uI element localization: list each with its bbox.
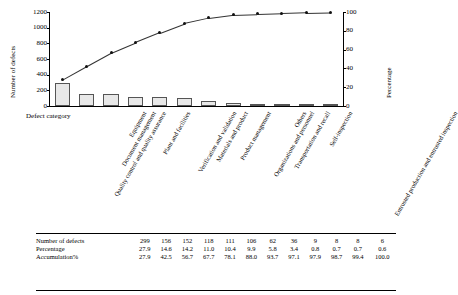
- y-right-tickmark: [343, 50, 346, 51]
- table-cell-1-3: 11.0: [198, 244, 219, 252]
- table-bottom-rule: [36, 290, 396, 291]
- y-left-tick-800: 800: [37, 40, 48, 47]
- table-cell-0-11: 6: [369, 236, 396, 244]
- y-right-tickmark: [343, 12, 346, 13]
- y-right-tickmark: [343, 68, 346, 69]
- table-cell-2-2: 56.7: [177, 253, 198, 261]
- table-top-rule: [36, 233, 396, 234]
- table-cell-2-8: 97.9: [305, 253, 326, 261]
- table-cell-2-10: 99.4: [347, 253, 368, 261]
- data-point-0: [61, 78, 64, 81]
- table-cell-1-1: 14.6: [155, 244, 176, 252]
- x-axis-tick-labels: Quality control and quality assuranceDoc…: [49, 108, 342, 188]
- table-row: Number of defects29915615211811110662369…: [36, 236, 396, 244]
- line-segment-0: [62, 66, 87, 81]
- data-point-1: [85, 65, 88, 68]
- table-cell-0-9: 8: [326, 236, 347, 244]
- y-right-tick-0: 0: [346, 103, 350, 110]
- line-segment-10: [306, 12, 330, 14]
- y-right-tick-100: 100: [346, 9, 357, 16]
- data-point-10: [305, 11, 308, 14]
- table-cell-2-5: 88.0: [241, 253, 262, 261]
- y-right-tick-60: 60: [346, 46, 353, 53]
- data-point-6: [207, 16, 210, 19]
- table-cell-1-2: 14.2: [177, 244, 198, 252]
- table-cell-0-1: 156: [155, 236, 176, 244]
- y-right-tick-40: 40: [346, 65, 353, 72]
- y-right-tick-80: 80: [346, 27, 353, 34]
- table-cell-0-5: 106: [241, 236, 262, 244]
- data-point-2: [110, 51, 113, 54]
- table-cell-2-1: 42.5: [155, 253, 176, 261]
- data-point-11: [329, 11, 332, 14]
- y-axis-left-label: Number of defects: [9, 46, 17, 98]
- table-cell-1-9: 0.7: [326, 244, 347, 252]
- y-right-tick-20: 20: [346, 84, 353, 91]
- cumulative-line-series: [50, 12, 343, 106]
- table-cell-0-3: 118: [198, 236, 219, 244]
- table-cell-0-6: 62: [262, 236, 283, 244]
- x-tick-label-10: Self-inspection: [328, 110, 354, 148]
- table-row: Percentage27.914.614.211.010.49.95.83.40…: [36, 244, 396, 252]
- y-right-tickmark: [343, 31, 346, 32]
- table-cell-1-6: 5.8: [262, 244, 283, 252]
- line-segment-1: [87, 53, 112, 67]
- table-cell-1-4: 10.4: [219, 244, 240, 252]
- table-cell-2-11: 100.0: [369, 253, 396, 261]
- data-point-3: [134, 41, 137, 44]
- table-cell-1-10: 0.7: [347, 244, 368, 252]
- y-right-tickmark: [343, 106, 346, 107]
- table-cell-1-0: 27.9: [134, 244, 155, 252]
- line-segment-3: [135, 33, 160, 44]
- table-cell-0-2: 152: [177, 236, 198, 244]
- y-left-tick-1000: 1000: [33, 24, 47, 31]
- line-segment-7: [233, 14, 257, 16]
- table-row-header: Percentage: [36, 244, 134, 252]
- table-cell-1-5: 9.9: [241, 244, 262, 252]
- line-segment-5: [184, 18, 209, 24]
- table-row-header: Number of defects: [36, 236, 134, 244]
- y-left-tickmark: [47, 59, 50, 60]
- table-cell-1-11: 0.6: [369, 244, 396, 252]
- table-cell-2-4: 78.1: [219, 253, 240, 261]
- table-cell-0-10: 8: [347, 236, 368, 244]
- y-axis-right-label: Percentage: [385, 67, 393, 98]
- y-left-tick-200: 200: [37, 87, 48, 94]
- table-cell-0-4: 111: [219, 236, 240, 244]
- x-axis-label: Defect category: [26, 112, 71, 120]
- y-left-tick-400: 400: [37, 71, 48, 78]
- x-tick-label-11: Entrusted production and entrusted inspe…: [393, 110, 458, 217]
- table-row: Accumulation%27.942.556.767.778.188.093.…: [36, 253, 396, 261]
- table-cell-1-7: 3.4: [283, 244, 304, 252]
- table-cell-0-8: 9: [305, 236, 326, 244]
- table-cell-2-6: 93.7: [262, 253, 283, 261]
- table-cell-2-3: 67.7: [198, 253, 219, 261]
- line-segment-6: [209, 15, 234, 19]
- y-left-tickmark: [47, 28, 50, 29]
- y-left-tickmark: [47, 43, 50, 44]
- y-left-tick-1200: 1200: [33, 9, 47, 16]
- data-point-5: [183, 22, 186, 25]
- y-left-tick-600: 600: [37, 56, 48, 63]
- table-cell-0-0: 299: [134, 236, 155, 244]
- data-point-7: [232, 13, 235, 16]
- data-table: Number of defects29915615211811110662369…: [36, 236, 396, 261]
- table-cell-1-8: 0.8: [305, 244, 326, 252]
- table-cell-2-7: 97.1: [283, 253, 304, 261]
- plot-box: 020040060080010001200020406080100: [49, 12, 344, 107]
- table-cell-0-7: 36: [283, 236, 304, 244]
- y-left-tickmark: [47, 75, 50, 76]
- line-segment-4: [160, 23, 185, 33]
- line-segment-9: [282, 13, 306, 15]
- y-left-tickmark: [47, 12, 50, 13]
- y-left-tickmark: [47, 106, 50, 107]
- x-tick-label-3: Plant and facilities: [162, 110, 192, 155]
- line-segment-2: [111, 42, 136, 53]
- y-left-tickmark: [47, 90, 50, 91]
- plot-area: Number of defects Percentage 02004006008…: [0, 0, 403, 130]
- table-cell-2-9: 98.7: [326, 253, 347, 261]
- table-row-header: Accumulation%: [36, 253, 134, 261]
- line-segment-8: [258, 13, 282, 15]
- y-right-tickmark: [343, 87, 346, 88]
